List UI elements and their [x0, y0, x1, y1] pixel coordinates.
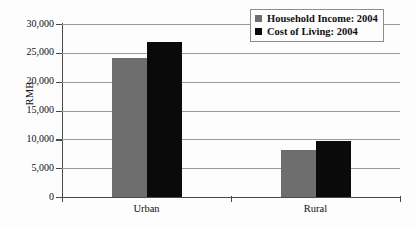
y-axis-tick-label: 25,000	[2, 46, 54, 57]
bar	[112, 58, 147, 197]
x-axis-category-label: Urban	[87, 203, 207, 214]
chart-legend: Household Income: 2004Cost of Living: 20…	[250, 9, 384, 42]
y-axis-tick-label: 30,000	[2, 18, 54, 29]
legend-item: Household Income: 2004	[255, 12, 378, 25]
bar-chart: RMB 30,00025,00020,00015,00010,0005,0000…	[0, 0, 415, 226]
y-axis-tick-label: 20,000	[2, 75, 54, 86]
legend-swatch-icon	[255, 15, 262, 22]
x-axis-tick	[231, 196, 232, 202]
y-axis-tick-label: 15,000	[2, 104, 54, 115]
legend-item: Cost of Living: 2004	[255, 25, 378, 38]
bar	[281, 150, 316, 197]
gridline	[62, 53, 400, 54]
x-axis-tick	[400, 196, 401, 202]
plot-area	[62, 24, 400, 197]
x-axis-tick	[62, 196, 63, 202]
y-axis-tick-label: 5,000	[2, 162, 54, 173]
y-axis-tick-label: 0	[2, 191, 54, 202]
bar	[316, 141, 351, 198]
x-axis-category-label: Rural	[256, 203, 376, 214]
legend-label: Household Income: 2004	[267, 12, 378, 25]
bar	[147, 42, 182, 197]
legend-swatch-icon	[255, 28, 262, 35]
legend-label: Cost of Living: 2004	[267, 25, 358, 38]
y-axis-tick-label: 10,000	[2, 133, 54, 144]
